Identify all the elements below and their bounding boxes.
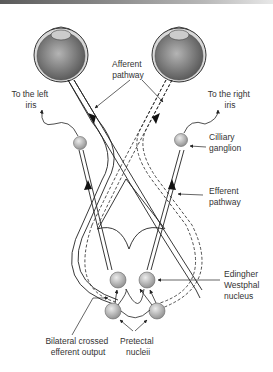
afferent-label: Afferent pathway [112,59,145,80]
ciliary-ganglion-label: Cilliary ganglion [209,132,241,153]
left-iris-label: To the left iris [11,89,50,110]
right-pretectal-nucleus [149,303,165,319]
afferent-arrowhead-right [152,113,160,124]
pupillary-reflex-diagram: Afferent pathway To the left iris To the… [0,0,273,372]
left-pretectal-nucleus [105,303,121,319]
left-eye [34,27,88,82]
right-iris-arrow [184,110,218,133]
right-ciliary-ganglion [175,134,188,147]
right-iris-label: To the right iris [208,89,252,110]
right-efferent-pathway [147,150,184,270]
bilateral-output-label: Bilateral crossed efferent output [45,336,110,357]
efferent-label: Efferent pathway [209,186,241,207]
right-edinger-westphal-nucleus [139,272,155,288]
right-eye [152,27,206,82]
edinger-westphal-label: Edingher Westphal nucleus [224,269,262,301]
left-edinger-westphal-nucleus [110,272,126,288]
left-ciliary-ganglion [74,137,87,150]
left-afferent-pathway [68,80,202,305]
pretectal-label: Pretectal nucleii [120,336,156,357]
left-iris-arrow [42,110,78,136]
